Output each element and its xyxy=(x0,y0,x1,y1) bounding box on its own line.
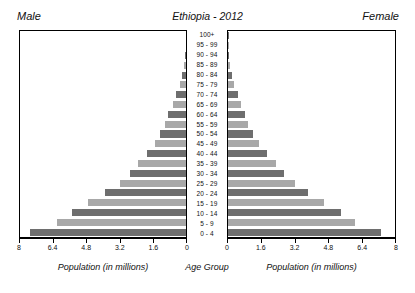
male-bar xyxy=(105,189,186,196)
age-group-label: 10 - 14 xyxy=(187,208,227,218)
axis-tick xyxy=(53,238,54,243)
bar-row xyxy=(20,100,186,110)
female-axis-title: Population (in millions) xyxy=(227,262,396,272)
bar-row xyxy=(228,119,395,129)
age-group-label: 0 - 4 xyxy=(187,228,227,238)
bar-row xyxy=(20,208,186,218)
male-bar xyxy=(72,209,186,216)
male-bar xyxy=(160,130,186,137)
bar-row xyxy=(228,100,395,110)
bar-row xyxy=(228,208,395,218)
age-group-label: 20 - 24 xyxy=(187,188,227,198)
axis-tick xyxy=(86,238,87,243)
bar-row xyxy=(20,80,186,90)
male-bar xyxy=(30,229,186,236)
axis-tick xyxy=(261,238,262,243)
age-group-label: 70 - 74 xyxy=(187,89,227,99)
bar-row xyxy=(20,60,186,70)
bar-row xyxy=(20,129,186,139)
bar-row xyxy=(228,178,395,188)
female-bar xyxy=(228,72,232,79)
bar-row xyxy=(228,31,395,41)
bar-row xyxy=(228,129,395,139)
male-bar xyxy=(173,101,186,108)
axis-tick xyxy=(362,238,363,243)
bar-row xyxy=(228,41,395,51)
female-bar xyxy=(228,219,355,226)
axis-tick-label: 0 xyxy=(225,244,229,251)
bar-row xyxy=(228,159,395,169)
female-bar xyxy=(228,52,229,59)
female-bar xyxy=(228,229,381,236)
bar-row xyxy=(228,227,395,237)
axis-tick-label: 4.8 xyxy=(81,244,91,251)
bar-row xyxy=(228,51,395,61)
female-bar xyxy=(228,199,324,206)
bar-row xyxy=(20,178,186,188)
male-bar xyxy=(147,150,186,157)
female-bar xyxy=(228,111,245,118)
male-bar-group xyxy=(20,31,186,237)
bar-row xyxy=(20,41,186,51)
female-bar xyxy=(228,130,253,137)
age-group-label: 45 - 49 xyxy=(187,139,227,149)
bar-row xyxy=(228,70,395,80)
bar-row xyxy=(228,80,395,90)
male-bar xyxy=(184,62,186,69)
male-bar xyxy=(57,219,186,226)
axis-tick xyxy=(295,238,296,243)
chart-title: Ethiopia - 2012 xyxy=(0,10,415,22)
axis-tick xyxy=(328,238,329,243)
age-group-labels: 0 - 45 - 910 - 1415 - 1920 - 2425 - 2930… xyxy=(187,30,227,238)
female-bar xyxy=(228,150,267,157)
male-bar xyxy=(155,140,186,147)
axis-tick xyxy=(120,238,121,243)
bar-row xyxy=(228,60,395,70)
age-group-label: 65 - 69 xyxy=(187,99,227,109)
age-group-label: 30 - 34 xyxy=(187,169,227,179)
age-group-label: 85 - 89 xyxy=(187,60,227,70)
axis-tick-label: 6.4 xyxy=(48,244,58,251)
female-bar xyxy=(228,91,238,98)
axis-tick xyxy=(153,238,154,243)
bar-row xyxy=(20,227,186,237)
bar-row xyxy=(20,90,186,100)
female-x-axis: 01.63.24.86.48 xyxy=(227,238,396,256)
female-axis-line xyxy=(227,238,396,239)
axis-tick-label: 8 xyxy=(394,244,398,251)
male-axis-line xyxy=(19,238,187,239)
axis-tick-label: 6.4 xyxy=(357,244,367,251)
age-group-label: 15 - 19 xyxy=(187,198,227,208)
male-bar xyxy=(182,72,186,79)
female-bar xyxy=(228,81,234,88)
female-bar xyxy=(228,209,341,216)
axis-tick-label: 1.6 xyxy=(256,244,266,251)
age-group-label: 40 - 44 xyxy=(187,149,227,159)
bar-row xyxy=(20,31,186,41)
bar-row xyxy=(20,188,186,198)
age-group-label: 80 - 84 xyxy=(187,70,227,80)
male-bar xyxy=(185,52,186,59)
male-bar xyxy=(138,160,186,167)
female-bar xyxy=(228,62,230,69)
female-bar xyxy=(228,189,308,196)
age-group-label: 50 - 54 xyxy=(187,129,227,139)
axis-tick-label: 0 xyxy=(185,244,189,251)
bar-row xyxy=(20,51,186,61)
bar-row xyxy=(228,188,395,198)
age-group-label: 60 - 64 xyxy=(187,109,227,119)
age-group-label: 35 - 39 xyxy=(187,159,227,169)
axis-tick xyxy=(186,238,187,243)
age-group-label: 75 - 79 xyxy=(187,80,227,90)
bar-row xyxy=(20,149,186,159)
male-bar xyxy=(88,199,186,206)
male-bar xyxy=(130,170,186,177)
female-bar-group xyxy=(228,31,395,237)
age-group-label: 95 - 99 xyxy=(187,40,227,50)
bar-row xyxy=(20,168,186,178)
bar-row xyxy=(20,139,186,149)
male-plot-panel xyxy=(19,30,187,238)
age-group-label: 5 - 9 xyxy=(187,218,227,228)
axis-tick xyxy=(395,238,396,243)
axis-tick-label: 3.2 xyxy=(115,244,125,251)
